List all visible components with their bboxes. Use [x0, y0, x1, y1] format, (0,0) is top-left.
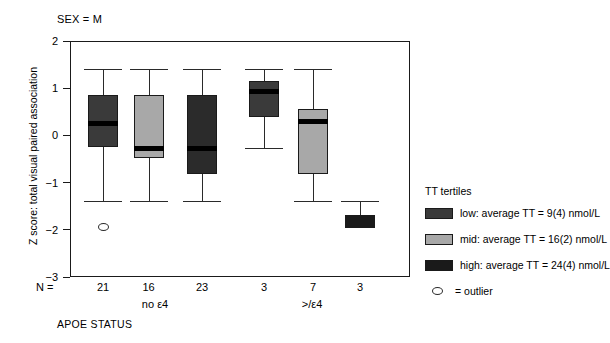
whisker-lower	[313, 174, 314, 201]
legend: TT tertiles low: average TT = 9(4) nmol/…	[425, 185, 610, 298]
whisker-cap-lower	[294, 201, 332, 202]
y-tick-label: 2	[30, 35, 58, 47]
outlier-marker	[98, 223, 109, 231]
n-count-label: 21	[97, 281, 109, 293]
legend-swatch-mid	[425, 234, 453, 245]
whisker-cap-lower	[245, 148, 283, 149]
median-line	[134, 146, 164, 151]
whisker-cap-lower	[130, 201, 168, 202]
median-line	[88, 121, 118, 126]
y-tick-mark	[63, 229, 70, 230]
box-high	[187, 95, 217, 174]
whisker-cap-upper	[341, 201, 379, 202]
median-line	[249, 89, 279, 94]
group-label: no ε4	[142, 298, 168, 310]
whisker-upper	[202, 69, 203, 95]
y-tick-mark	[63, 182, 70, 183]
legend-label-high: high: average TT = 24(4) nmol/L	[460, 259, 610, 271]
whisker-cap-upper	[245, 69, 283, 70]
whisker-lower	[264, 117, 265, 149]
legend-label-low: low: average TT = 9(4) nmol/L	[460, 207, 600, 219]
whisker-cap-upper	[84, 69, 122, 70]
whisker-cap-lower	[183, 201, 221, 202]
y-tick-mark	[63, 135, 70, 136]
legend-title: TT tertiles	[425, 185, 610, 197]
whisker-upper	[360, 201, 361, 215]
panel-title: SEX = M	[57, 13, 102, 25]
n-count-label: 3	[357, 281, 363, 293]
whisker-lower	[103, 147, 104, 201]
whisker-upper	[103, 69, 104, 95]
group-label: >/ε4	[302, 298, 323, 310]
y-tick-label: −2	[30, 224, 58, 236]
whisker-lower	[202, 174, 203, 201]
legend-item-low: low: average TT = 9(4) nmol/L	[425, 206, 610, 220]
legend-swatch-high	[425, 260, 453, 271]
legend-swatch-low	[425, 208, 453, 219]
x-axis-title: APOE STATUS	[57, 318, 132, 330]
y-tick-label: −1	[30, 177, 58, 189]
whisker-upper	[149, 69, 150, 95]
box-high	[345, 215, 375, 228]
legend-item-high: high: average TT = 24(4) nmol/L	[425, 258, 610, 272]
box-low	[249, 81, 279, 116]
whisker-lower	[149, 158, 150, 201]
n-count-label: 23	[196, 281, 208, 293]
n-count-label: 3	[261, 281, 267, 293]
plot-area	[70, 41, 410, 277]
n-equals-label: N =	[36, 281, 53, 293]
legend-item-mid: mid: average TT = 16(2) nmol/L	[425, 232, 610, 246]
y-tick-mark	[63, 41, 70, 42]
y-tick-mark	[63, 277, 70, 278]
n-count-label: 16	[142, 281, 154, 293]
whisker-cap-upper	[294, 69, 332, 70]
whisker-upper	[264, 69, 265, 81]
y-tick-label: 0	[30, 129, 58, 141]
whisker-cap-upper	[130, 69, 168, 70]
outlier-icon	[432, 287, 443, 295]
whisker-upper	[313, 69, 314, 109]
n-count-label: 7	[310, 281, 316, 293]
median-line	[187, 146, 217, 151]
legend-outlier-label: = outlier	[455, 285, 493, 297]
whisker-cap-upper	[183, 69, 221, 70]
median-line	[298, 119, 328, 124]
legend-items: low: average TT = 9(4) nmol/Lmid: averag…	[425, 206, 610, 272]
whisker-cap-lower	[84, 201, 122, 202]
legend-label-mid: mid: average TT = 16(2) nmol/L	[460, 233, 607, 245]
y-tick-label: 1	[30, 82, 58, 94]
legend-outlier-row: = outlier	[425, 284, 610, 298]
y-tick-mark	[63, 88, 70, 89]
